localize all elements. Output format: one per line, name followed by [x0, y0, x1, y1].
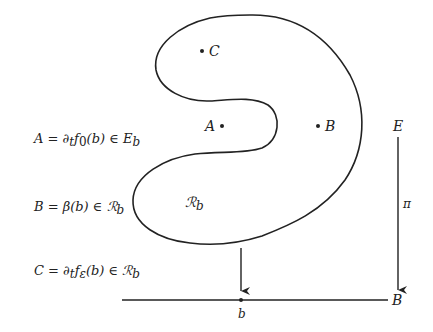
equation-a: A = ∂tf0(b) ∈ Eb	[33, 131, 140, 149]
base-point-label: b	[238, 307, 246, 321]
projection-label: π	[402, 197, 412, 211]
base-point-dot	[239, 298, 243, 302]
base-space-label: B	[391, 292, 402, 308]
point-b-dot	[316, 124, 320, 128]
point-a-dot	[220, 124, 224, 128]
point-c-dot	[200, 49, 204, 53]
point-a-label: A	[203, 118, 215, 134]
equation-b: B = β(b) ∈ ℛb	[33, 199, 124, 217]
point-c-label: C	[209, 43, 220, 59]
point-b-label: B	[324, 118, 335, 134]
diagram-canvas: C A B ℛb A = ∂tf0(b) ∈ Eb B = β(b) ∈ ℛb …	[0, 0, 433, 332]
total-space-label: E	[392, 118, 403, 134]
region-label: ℛb	[185, 194, 204, 213]
equation-c: C = ∂tfε(b) ∈ ℛb	[34, 263, 140, 281]
